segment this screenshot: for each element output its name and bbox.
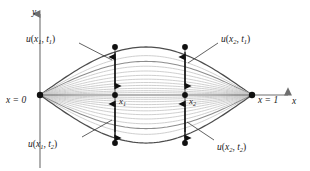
origin-label: x = 0 — [6, 96, 26, 106]
annotation-u-x2-t1: u(x2, t1) — [221, 35, 250, 45]
leader-u-x2-t1 — [188, 43, 218, 63]
marker-u-x1-t1 — [112, 44, 118, 50]
leader-u-x1-t1 — [79, 43, 112, 60]
annotation-u-x1-t2: u(x1, t2) — [28, 140, 57, 150]
marker-u-x1-t2 — [112, 140, 118, 146]
x-axis-label: x — [292, 97, 296, 107]
marker-u-x2-t2 — [182, 140, 188, 146]
profile-curve — [40, 95, 252, 119]
wave-profile-figure: y x x = 0 x = 1 x1 x2 u(x1, t1) u(x2, t1… — [0, 0, 310, 171]
annotation-u-x1-t1: u(x1, t1) — [26, 35, 55, 45]
leader-u-x2-t2 — [187, 122, 214, 140]
profile-curve — [40, 71, 252, 95]
marker-x2-axis — [182, 92, 188, 98]
marker-u-x2-t1 — [182, 44, 188, 50]
tick-label-x1: x1 — [119, 97, 126, 107]
marker-endpoint-left — [37, 92, 43, 98]
marker-x1-axis — [112, 92, 118, 98]
right-endpoint-label: x = 1 — [258, 96, 278, 106]
y-axis-label: y — [32, 8, 36, 18]
tick-label-x2: x2 — [189, 97, 196, 107]
annotation-u-x2-t2: u(x2, t2) — [217, 143, 246, 153]
marker-endpoint-right — [249, 92, 255, 98]
